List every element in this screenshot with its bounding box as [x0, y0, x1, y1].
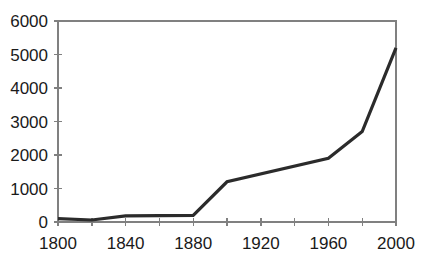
y-axis-tick-label: 1000 — [10, 180, 48, 199]
chart-background — [0, 0, 424, 272]
y-axis-tick-label: 5000 — [10, 46, 48, 65]
y-axis-tick-label: 0 — [39, 213, 48, 232]
y-axis-tick-label: 4000 — [10, 79, 48, 98]
x-axis-tick-label: 1920 — [242, 234, 280, 253]
line-chart: 0100020003000400050006000 18001840188019… — [0, 0, 424, 272]
x-axis-tick-label: 2000 — [377, 234, 415, 253]
chart-container: 0100020003000400050006000 18001840188019… — [0, 0, 424, 272]
y-axis-tick-label: 3000 — [10, 113, 48, 132]
x-axis-tick-label: 1880 — [174, 234, 212, 253]
y-axis-tick-label: 2000 — [10, 146, 48, 165]
y-axis-tick-label: 6000 — [10, 12, 48, 31]
x-axis-tick-label: 1800 — [39, 234, 77, 253]
x-axis-tick-label: 1960 — [309, 234, 347, 253]
x-axis-tick-label: 1840 — [107, 234, 145, 253]
